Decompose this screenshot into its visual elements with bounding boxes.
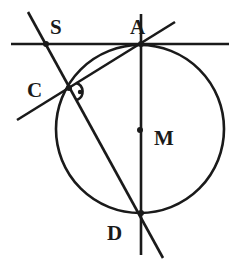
label-A: A — [130, 15, 146, 39]
line-SD — [28, 12, 163, 258]
point-M — [137, 127, 143, 133]
right-angle-dot — [78, 90, 82, 94]
label-D: D — [107, 221, 122, 245]
point-C — [66, 85, 72, 91]
label-C: C — [27, 78, 42, 102]
point-D — [138, 210, 144, 216]
label-M: M — [154, 126, 174, 150]
point-S — [43, 41, 49, 47]
point-A — [138, 41, 144, 47]
geometry-diagram: S A C M D — [0, 0, 240, 268]
label-S: S — [50, 15, 62, 39]
